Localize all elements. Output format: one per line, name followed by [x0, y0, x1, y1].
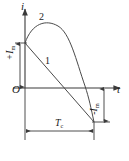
waveform-figure: i t O 1 2 +Im -Im Tc [0, 0, 129, 161]
time-axis-label: t [117, 84, 120, 95]
positive-peak-label: +Im [5, 46, 15, 61]
waveform-drawing [0, 0, 129, 161]
curve-1-label: 1 [45, 56, 50, 66]
origin-label: O [12, 84, 20, 95]
curve-2-path [25, 23, 94, 122]
positive-peak-label-main: +I [4, 50, 15, 60]
negative-peak-label-main: -I [88, 108, 99, 115]
cycle-period-label-main: T [55, 117, 61, 128]
cycle-period-label-sub: c [61, 122, 64, 129]
positive-peak-label-sub: m [9, 46, 16, 51]
curve-2-label: 2 [39, 12, 44, 22]
cycle-period-label: Tc [55, 118, 63, 128]
negative-peak-label-sub: m [92, 103, 99, 108]
negative-peak-label: -Im [89, 103, 99, 115]
current-axis-label: i [21, 1, 24, 12]
